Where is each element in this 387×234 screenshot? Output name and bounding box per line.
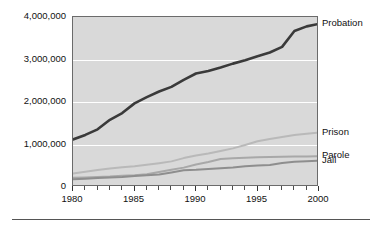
x-axis-minor-tick	[269, 186, 270, 190]
x-axis-tick-label: 1995	[237, 193, 277, 204]
x-axis-tick-label: 2000	[298, 193, 338, 204]
y-axis-tick-label: 1,000,000	[2, 139, 66, 149]
x-axis-minor-tick	[207, 186, 208, 190]
x-axis-minor-tick	[146, 186, 147, 190]
x-axis-minor-tick	[121, 186, 122, 190]
x-axis-tick-label: 1990	[175, 193, 215, 204]
x-axis-minor-tick	[293, 186, 294, 190]
x-axis-tick-label: 1980	[52, 193, 92, 204]
y-axis-tick-label: 0	[2, 181, 66, 191]
x-axis-minor-tick	[183, 186, 184, 190]
x-axis-minor-tick	[244, 186, 245, 190]
x-axis-major-tick	[72, 186, 73, 191]
series-label-probation: Probation	[322, 18, 363, 28]
series-lines	[73, 17, 318, 186]
line-chart-figure: 4,000,0003,000,0002,000,0001,000,0000 19…	[0, 0, 387, 234]
y-axis-tick-label: 4,000,000	[2, 11, 66, 21]
x-axis-minor-tick	[97, 186, 98, 190]
series-label-jail: Jail	[322, 155, 336, 165]
x-axis-minor-tick	[232, 186, 233, 190]
x-axis-minor-tick	[220, 186, 221, 190]
y-axis-tick-label: 3,000,000	[2, 54, 66, 64]
series-line-probation	[73, 24, 318, 140]
x-axis-tick-label: 1985	[114, 193, 154, 204]
x-axis-major-tick	[318, 186, 319, 191]
x-axis-minor-tick	[84, 186, 85, 190]
x-axis-major-tick	[134, 186, 135, 191]
x-axis-minor-tick	[281, 186, 282, 190]
footer-rule	[12, 219, 370, 220]
x-axis-minor-tick	[170, 186, 171, 190]
x-axis-minor-tick	[306, 186, 307, 190]
x-axis-minor-tick	[158, 186, 159, 190]
series-line-parole	[73, 156, 318, 177]
y-axis-tick-label: 2,000,000	[2, 96, 66, 106]
series-label-prison: Prison	[322, 127, 349, 137]
series-line-prison	[73, 133, 318, 174]
x-axis-major-tick	[195, 186, 196, 191]
x-axis-minor-tick	[109, 186, 110, 190]
plot-area	[72, 16, 318, 186]
x-axis-major-tick	[257, 186, 258, 191]
